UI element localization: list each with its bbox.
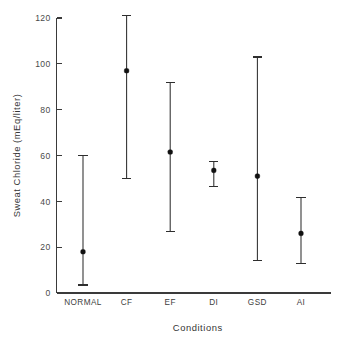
y-axis-tick-label: 20: [40, 242, 50, 252]
error-bar-normal: [78, 156, 87, 285]
x-axis-tick-label: DI: [209, 298, 218, 307]
y-axis-tick-label: 0: [45, 288, 50, 298]
data-point-marker: [299, 231, 304, 236]
error-bar-gsd: [253, 57, 262, 261]
y-axis-tick-label: 40: [40, 197, 50, 207]
error-bar-cf: [122, 16, 131, 179]
error-bar-di: [209, 161, 218, 186]
data-point-marker: [124, 68, 129, 73]
error-bar-ai: [296, 198, 305, 263]
data-point-marker: [168, 150, 173, 155]
y-axis-tick-label: 120: [35, 13, 50, 23]
data-point-marker: [255, 174, 260, 179]
y-axis-tick-label: 60: [40, 151, 50, 161]
error-bar-ef: [166, 82, 175, 231]
x-axis-tick-label: GSD: [248, 298, 267, 307]
y-axis-tick-label: 80: [40, 105, 50, 115]
chart-figure: 020406080100120Sweat Chloride (mEq/liter…: [0, 0, 343, 344]
y-axis-tick-label: 100: [35, 59, 50, 69]
data-point-marker: [212, 168, 217, 173]
y-axis-title: Sweat Chloride (mEq/liter): [11, 94, 22, 218]
x-axis-title: Conditions: [173, 322, 223, 333]
x-axis-tick-label: EF: [165, 298, 176, 307]
data-point-marker: [81, 249, 86, 254]
x-axis-tick-label: CF: [121, 298, 133, 307]
error-bar-plot: 020406080100120Sweat Chloride (mEq/liter…: [0, 0, 343, 344]
x-axis-tick-label: NORMAL: [64, 298, 102, 307]
x-axis-tick-label: AI: [297, 298, 306, 307]
